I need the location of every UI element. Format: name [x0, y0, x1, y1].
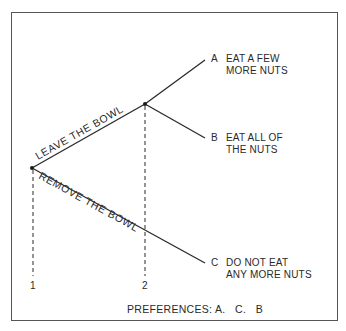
time-label-2: 2: [142, 280, 148, 291]
branch-label-remove: REMOVE THE BOWL: [37, 169, 141, 234]
preferences-label: PREFERENCES: A. C. B: [127, 303, 263, 315]
outcome-a-letter: A: [211, 53, 218, 64]
branch-leave-the-bowl: [32, 104, 145, 168]
branch-to-outcome-a: [145, 60, 205, 104]
branch-to-outcome-b: [145, 104, 205, 138]
outcome-c-text-line1: DO NOT EAT: [226, 257, 288, 268]
outcome-a-text-line1: EAT A FEW: [226, 53, 280, 64]
outcome-c-letter: C: [211, 257, 218, 268]
branch-label-leave: LEAVE THE BOWL: [33, 103, 125, 162]
decision-tree-diagram: LEAVE THE BOWL REMOVE THE BOWL A EAT A F…: [0, 0, 346, 331]
outcome-b-text-line2: THE NUTS: [226, 144, 278, 155]
outcome-c-text-line2: ANY MORE NUTS: [226, 269, 312, 280]
decision-node-1: [30, 166, 34, 170]
outcome-a-text-line2: MORE NUTS: [226, 65, 288, 76]
outcome-b-letter: B: [211, 132, 218, 143]
time-label-1: 1: [30, 280, 36, 291]
decision-node-2: [143, 102, 147, 106]
outcome-b-text-line1: EAT ALL OF: [226, 132, 283, 143]
